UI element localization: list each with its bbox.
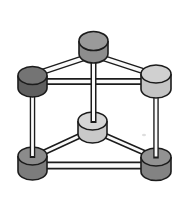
top-left-cylinder-top-face bbox=[18, 67, 47, 85]
prism-lattice-diagram bbox=[0, 0, 188, 200]
top-right-cylinder-top-face bbox=[141, 65, 171, 83]
figure-canvas bbox=[0, 0, 188, 200]
scan-artifact-dot bbox=[142, 134, 146, 137]
top-center-cylinder-top-face bbox=[79, 32, 108, 51]
